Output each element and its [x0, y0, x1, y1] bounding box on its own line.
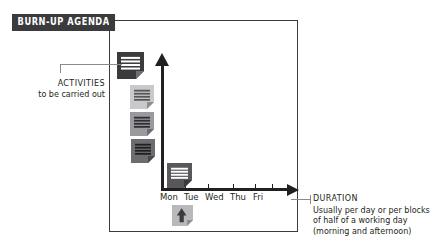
x-axis-label-mon: Mon: [160, 191, 178, 203]
x-axis-tick: [272, 184, 273, 189]
activity-doc-3-icon: [130, 112, 154, 136]
page-title: BURN-UP AGENDA: [12, 14, 115, 31]
duration-callout-line-2: of half of a working day: [313, 216, 431, 227]
duration-callout-line-1: Usually per day or per blocks: [313, 206, 431, 217]
x-axis-tick: [255, 184, 256, 189]
x-axis-label-wed: Wed: [205, 191, 224, 203]
x-axis-label-tue: Tue: [184, 191, 199, 203]
duration-leader-tick: [310, 195, 311, 204]
duration-callout-heading: DURATION: [313, 194, 431, 205]
x-axis-tick: [233, 184, 234, 189]
y-axis-arrowhead-icon: [155, 53, 169, 66]
activities-leader-line: [60, 64, 122, 65]
activities-callout: ACTIVITIES to be carried out: [10, 78, 105, 100]
diagram-canvas: BURN-UP AGENDA MonTueWedThuFri ACTIVITIE…: [0, 0, 433, 251]
activity-doc-2-icon: [130, 85, 154, 109]
duration-callout: DURATION Usually per day or per blocks o…: [313, 194, 431, 237]
activities-callout-heading: ACTIVITIES: [10, 78, 105, 89]
activity-doc-5-icon: [167, 163, 192, 188]
duration-callout-line-3: (morning and afternoon): [313, 227, 431, 238]
activity-doc-4-icon: [131, 139, 155, 163]
activities-leader-tick: [60, 64, 61, 73]
x-axis-tick: [208, 184, 209, 189]
y-axis: [161, 64, 164, 191]
x-axis-tick-labels: MonTueWedThuFri: [160, 191, 278, 204]
x-axis-arrowhead-icon: [287, 184, 299, 196]
duration-leader-line: [291, 199, 311, 200]
x-axis-tick: [162, 184, 163, 189]
activity-doc-1-icon: [117, 52, 144, 79]
activities-callout-body: to be carried out: [10, 89, 105, 100]
burnup-arrow-doc-icon: [172, 205, 193, 226]
x-axis-label-fri: Fri: [253, 191, 263, 203]
x-axis-label-thu: Thu: [230, 191, 246, 203]
